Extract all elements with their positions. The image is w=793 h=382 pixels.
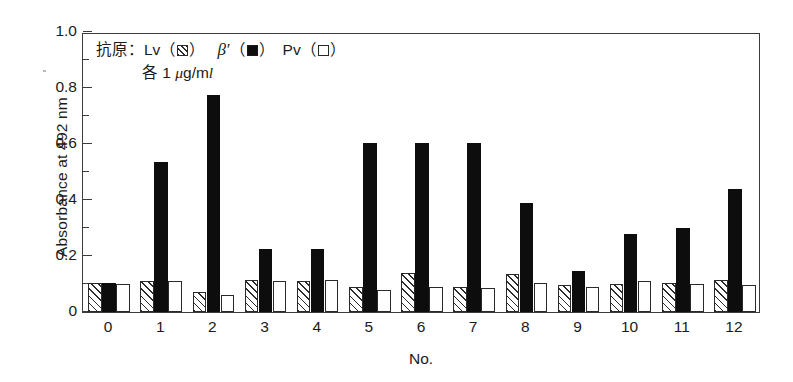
- x-axis-tick-label: 0: [104, 318, 113, 336]
- x-axis-tick-label: 1: [156, 318, 165, 336]
- bar--10: [624, 234, 638, 312]
- legend-line-2: 各 1 μg/ml: [96, 62, 346, 84]
- y-axis-tick-label: 0.4: [55, 190, 77, 208]
- bar-Lv-9: [558, 285, 572, 312]
- bar--3: [259, 249, 273, 312]
- bar-Pv-3: [273, 281, 287, 312]
- legend-paren-open-lv: （: [160, 41, 176, 58]
- bar-Pv-6: [429, 287, 443, 312]
- chart-figure: Absorbance at 492 nm 00.20.40.60.81.0 No…: [0, 0, 793, 382]
- legend-beta-label: β′: [217, 40, 229, 59]
- bar--2: [207, 95, 221, 312]
- legend-swatch-beta-solid-icon: [247, 45, 258, 56]
- bar-Lv-7: [453, 287, 467, 312]
- bar--11: [676, 228, 690, 312]
- legend-lv-label: Lv: [144, 41, 160, 58]
- legend-paren-close-beta: ）: [259, 41, 275, 58]
- legend-paren-close-pv: ）: [330, 41, 346, 58]
- y-axis-tick-label: 0.6: [55, 134, 77, 152]
- bar--7: [467, 143, 481, 312]
- bar-Lv-0: [88, 283, 102, 312]
- y-axis-tick: 0.6: [83, 143, 92, 144]
- bar-Pv-9: [586, 287, 600, 312]
- legend-antigen-prefix: 抗原：: [96, 41, 144, 58]
- y-axis-tick-label: 0.8: [55, 78, 77, 96]
- bar--4: [311, 249, 325, 312]
- y-axis-minor-tick: [83, 227, 89, 228]
- x-axis-tick-label: 12: [725, 318, 742, 336]
- legend-swatch-lv-hatched-icon: [177, 45, 188, 56]
- bar--6: [415, 143, 429, 312]
- legend-line-1: 抗原：Lv（）β′（）Pv（）: [96, 38, 346, 62]
- x-axis-tick-label: 9: [573, 318, 582, 336]
- bar-Pv-0: [116, 284, 130, 312]
- bar-Pv-2: [221, 295, 235, 312]
- legend: 抗原：Lv（）β′（）Pv（） 各 1 μg/ml: [96, 38, 346, 84]
- legend-pv-label: Pv: [283, 41, 301, 58]
- scan-artifact: [43, 70, 46, 72]
- bar-Lv-1: [140, 281, 154, 312]
- bar-Lv-8: [506, 274, 520, 312]
- x-axis-tick-label: 8: [521, 318, 530, 336]
- y-axis-minor-tick: [83, 171, 89, 172]
- bar-Pv-7: [481, 288, 495, 312]
- y-axis-tick: 0.4: [83, 199, 92, 200]
- bar--1: [154, 162, 168, 312]
- bar--5: [363, 143, 377, 312]
- y-axis-minor-tick: [83, 115, 89, 116]
- legend-unit-litre: l: [209, 64, 213, 81]
- bar-Lv-11: [662, 283, 676, 312]
- legend-paren-open-beta: （: [230, 41, 246, 58]
- x-axis-tick-label: 3: [260, 318, 269, 336]
- y-axis-tick: 0.2: [83, 255, 92, 256]
- bar-Lv-6: [401, 273, 415, 312]
- y-axis-minor-tick: [83, 59, 89, 60]
- x-axis-tick-label: 5: [365, 318, 374, 336]
- legend-paren-close-lv: ）: [189, 41, 205, 58]
- legend-concentration-prefix: 各 1: [142, 64, 175, 81]
- y-axis-tick: 0.8: [83, 87, 92, 88]
- y-axis-tick-label: 0: [68, 302, 77, 320]
- x-axis-tick-label: 10: [621, 318, 638, 336]
- bar-Pv-8: [534, 283, 548, 312]
- bar-Lv-10: [610, 284, 624, 312]
- legend-swatch-pv-open-icon: [318, 45, 329, 56]
- bar--0: [102, 283, 116, 312]
- bar-Lv-4: [297, 281, 311, 312]
- bar-Pv-12: [742, 285, 756, 312]
- x-axis-title: No.: [82, 350, 760, 368]
- x-axis-tick-label: 2: [208, 318, 217, 336]
- y-axis-tick: 1.0: [83, 31, 92, 32]
- x-axis-tick-label: 11: [674, 318, 690, 336]
- x-axis-tick-label: 7: [469, 318, 478, 336]
- bar-Pv-4: [325, 280, 339, 312]
- legend-mu-symbol: μ: [175, 64, 183, 81]
- legend-paren-open-pv: （: [301, 41, 317, 58]
- y-axis-tick-label: 1.0: [55, 22, 77, 40]
- bar-Pv-5: [377, 290, 391, 312]
- bar-Lv-12: [714, 280, 728, 312]
- bar--8: [520, 203, 534, 312]
- y-axis-tick-label: 0.2: [55, 246, 77, 264]
- bar-Pv-1: [168, 281, 182, 312]
- bar-Lv-3: [245, 280, 259, 312]
- bar-Pv-10: [638, 281, 652, 312]
- x-axis-tick-label: 6: [417, 318, 426, 336]
- bar--9: [572, 271, 586, 312]
- x-axis-tick-label: 4: [312, 318, 321, 336]
- bar-Pv-11: [690, 284, 704, 312]
- bar-Lv-5: [349, 287, 363, 312]
- legend-unit-g: g/m: [183, 64, 209, 81]
- y-axis-title: Absorbance at 492 nm: [53, 27, 71, 327]
- bar--12: [728, 189, 742, 312]
- bar-Lv-2: [193, 292, 207, 312]
